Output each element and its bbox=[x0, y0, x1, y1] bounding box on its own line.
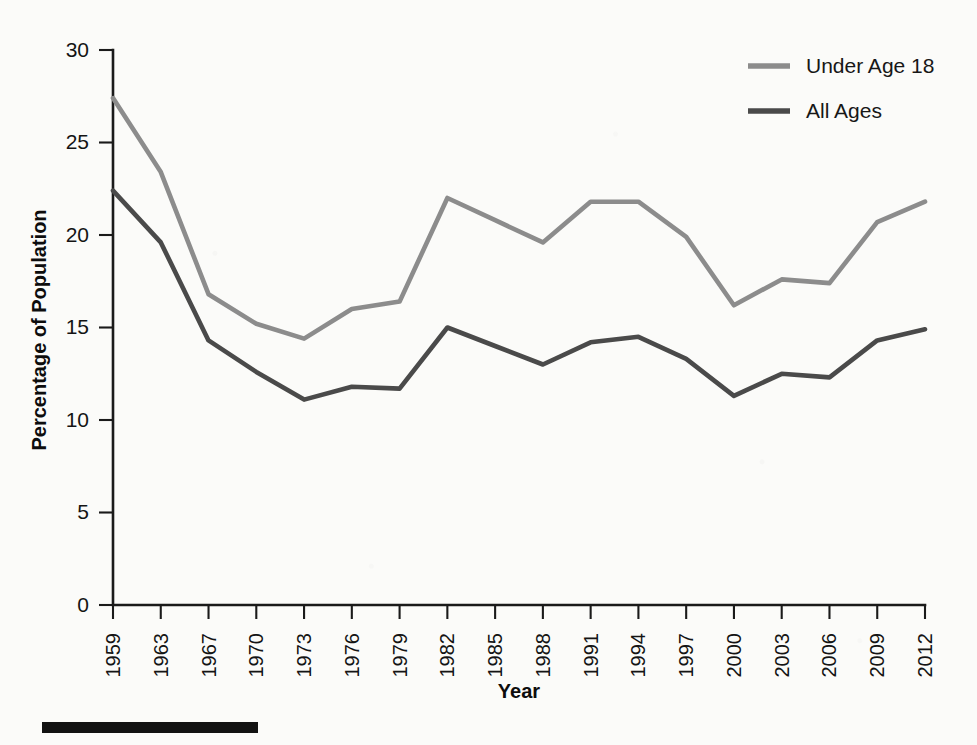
chart-page: Percentage of Population 051015202530 19… bbox=[0, 0, 977, 745]
x-tick-label: 2012 bbox=[914, 633, 936, 678]
x-tick-label: 1979 bbox=[389, 633, 411, 678]
x-tick-label: 1973 bbox=[293, 633, 315, 678]
x-tick-label: 1959 bbox=[102, 633, 124, 678]
bottom-rule bbox=[42, 722, 258, 733]
y-axis-title-text: Percentage of Population bbox=[28, 209, 50, 450]
series-line-under-age-18 bbox=[113, 98, 925, 339]
y-tick-label: 30 bbox=[66, 38, 89, 61]
x-tick-label: 1963 bbox=[150, 633, 172, 678]
y-tick-label: 5 bbox=[77, 500, 89, 523]
x-tick-label: 1982 bbox=[436, 633, 458, 678]
y-axis-title: Percentage of Population bbox=[28, 209, 50, 450]
x-tick-label: 1997 bbox=[675, 633, 697, 678]
x-axis-ticks: 1959196319671970197319761979198219851988… bbox=[102, 605, 936, 678]
x-axis-title-text: Year bbox=[498, 680, 540, 702]
line-chart: Percentage of Population 051015202530 19… bbox=[0, 0, 977, 745]
x-tick-label: 1994 bbox=[627, 633, 649, 678]
x-tick-label: 2000 bbox=[723, 633, 745, 678]
legend-label: Under Age 18 bbox=[806, 54, 934, 77]
x-tick-label: 2009 bbox=[866, 633, 888, 678]
chart-legend: Under Age 18All Ages bbox=[748, 54, 934, 122]
x-tick-label: 1985 bbox=[484, 633, 506, 678]
y-tick-label: 20 bbox=[66, 223, 89, 246]
x-tick-label: 1967 bbox=[198, 633, 220, 678]
y-tick-label: 15 bbox=[66, 315, 89, 338]
y-tick-label: 10 bbox=[66, 408, 89, 431]
axis-lines bbox=[113, 50, 925, 605]
x-tick-label: 1970 bbox=[245, 633, 267, 678]
y-tick-label: 25 bbox=[66, 130, 89, 153]
x-tick-label: 2003 bbox=[771, 633, 793, 678]
x-tick-label: 1988 bbox=[532, 633, 554, 678]
y-axis-ticks: 051015202530 bbox=[66, 38, 113, 616]
y-tick-label: 0 bbox=[77, 593, 89, 616]
series-line-all-ages bbox=[113, 191, 925, 400]
data-series-group bbox=[113, 98, 925, 400]
x-tick-label: 1991 bbox=[580, 633, 602, 678]
x-tick-label: 2006 bbox=[818, 633, 840, 678]
x-tick-label: 1976 bbox=[341, 633, 363, 678]
legend-label: All Ages bbox=[806, 99, 882, 122]
